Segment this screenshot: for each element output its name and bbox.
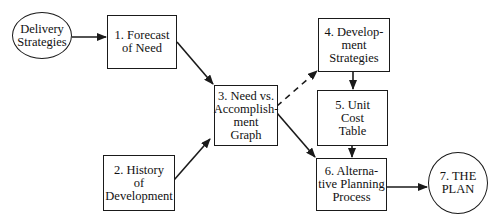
node-label: 1. Forecast of Need [115, 29, 170, 55]
node-label: 7. THE PLAN [440, 170, 477, 196]
node-delivery-strategies: Delivery Strategies [12, 12, 72, 59]
node-need-vs-accomplishment-graph: 3. Need vs. Accomplish- ment Graph [214, 85, 278, 146]
node-unit-cost-table: 5. Unit Cost Table [317, 90, 388, 146]
node-alternative-planning-process: 6. Alterna- tive Planning Process [316, 158, 387, 211]
node-history-of-development: 2. History of Development [103, 155, 175, 211]
node-forecast-of-need: 1. Forecast of Need [107, 15, 177, 69]
node-label: 4. Develop- ment Strategies [324, 26, 383, 65]
flowchart-diagram: Delivery Strategies 1. Forecast of Need … [0, 0, 500, 223]
edge-graph-to-alt-planning [277, 113, 315, 157]
edge-forecast-to-graph [177, 42, 213, 84]
node-label: 6. Alterna- tive Planning Process [318, 165, 384, 204]
node-the-plan: 7. THE PLAN [428, 152, 488, 214]
node-label: 3. Need vs. Accomplish- ment Graph [214, 90, 279, 142]
edge-history-to-graph [174, 139, 210, 180]
node-label: Delivery Strategies [17, 23, 66, 49]
node-label: 2. History of Development [105, 164, 172, 203]
edge-graph-to-dev-strategies [277, 71, 317, 106]
node-label: 5. Unit Cost Table [335, 99, 370, 138]
node-development-strategies: 4. Develop- ment Strategies [318, 18, 390, 72]
